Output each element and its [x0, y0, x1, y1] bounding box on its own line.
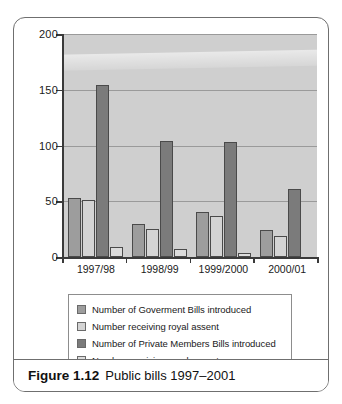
legend-item: Number of Private Members Bills introduc… [77, 335, 283, 351]
x-axis-label: 1997/98 [77, 263, 115, 275]
legend-label: Number receiving royal assent [92, 321, 219, 332]
figure-frame: 050100150200 1997/981998/991999/20002000… [13, 17, 329, 392]
x-axis-label: 1998/99 [141, 263, 179, 275]
x-axis [56, 257, 317, 259]
bar-group [132, 34, 187, 257]
bar [82, 200, 95, 257]
plot-area [62, 34, 317, 257]
x-tick-mark [317, 257, 319, 263]
bar [146, 229, 159, 257]
bar [260, 230, 273, 257]
legend-label: Number of Private Members Bills introduc… [92, 338, 276, 349]
caption-bar: Figure 1.12 Public bills 1997–2001 [14, 359, 328, 391]
x-axis-label: 1999/2000 [199, 263, 249, 275]
bar [96, 85, 109, 257]
x-tick-mark [190, 257, 192, 263]
x-tick-mark [62, 257, 64, 263]
caption-title: Public bills 1997–2001 [105, 368, 235, 383]
legend-swatch-icon [77, 322, 86, 331]
bar [210, 216, 223, 257]
bar [274, 236, 287, 257]
bar [174, 249, 187, 257]
y-tick-label: 0 [52, 251, 58, 263]
legend-label: Number of Goverment Bills introduced [92, 304, 251, 315]
bar-group [260, 34, 315, 257]
y-tick-label: 50 [45, 195, 58, 207]
y-tick-label: 100 [39, 140, 58, 152]
chart-legend: Number of Goverment Bills introducedNumb… [68, 294, 292, 368]
bar [196, 212, 209, 257]
y-axis [62, 34, 64, 257]
x-tick-mark [126, 257, 128, 263]
y-tick-label: 150 [39, 84, 58, 96]
bar-group [68, 34, 123, 257]
y-tick-label: 200 [39, 28, 58, 40]
bar [68, 198, 81, 257]
x-tick-mark [253, 257, 255, 263]
x-axis-label: 2000/01 [268, 263, 306, 275]
legend-swatch-icon [77, 339, 86, 348]
bar [132, 224, 145, 257]
chart-area: 050100150200 1997/981998/991999/20002000… [44, 34, 317, 274]
bar [160, 141, 173, 257]
bar-group [196, 34, 251, 257]
legend-item: Number receiving royal assent [77, 318, 283, 334]
legend-item: Number of Goverment Bills introduced [77, 301, 283, 317]
bar [288, 189, 301, 257]
bar [110, 247, 123, 257]
bar [224, 142, 237, 257]
caption-figure-number: Figure 1.12 [28, 368, 99, 383]
legend-swatch-icon [77, 305, 86, 314]
